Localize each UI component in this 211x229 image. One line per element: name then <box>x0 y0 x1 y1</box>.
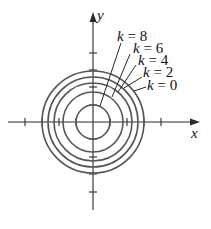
label-k0: k = 0 <box>147 77 177 93</box>
y-axis-arrow-icon <box>90 12 97 22</box>
leader-k8 <box>100 43 121 106</box>
x-axis-label: x <box>190 125 198 141</box>
level-curve-diagram: k = 8 k = 6 k = 4 k = 2 k = 0 y x <box>0 0 211 229</box>
y-axis-label: y <box>95 7 104 23</box>
axes <box>8 12 200 210</box>
leader-k0 <box>134 87 146 91</box>
